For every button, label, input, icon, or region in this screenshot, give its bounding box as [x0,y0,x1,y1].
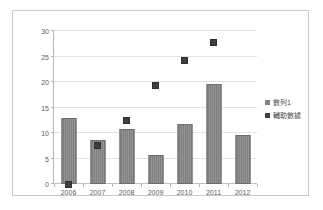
x-tick-label-2009: 2009 [148,189,164,196]
marker-2006[interactable] [65,181,72,188]
x-tick-mark [112,184,113,187]
bar-2008[interactable] [119,129,134,184]
legend-item-1[interactable]: 數列1 [265,99,317,106]
x-tick-mark [170,184,171,187]
bar-group [83,31,112,184]
marker-2010[interactable] [181,57,188,64]
x-tick-mark [54,184,55,187]
bar-group [199,31,228,184]
chart-legend: 數列1輔助數據 [265,99,317,125]
bar-2010[interactable] [177,124,192,184]
y-tick-label: 30 [41,28,49,35]
y-tick-label: 5 [45,155,49,162]
legend-label: 輔助數據 [273,112,301,119]
x-tick-label-2006: 2006 [61,189,77,196]
x-tick-mark [199,184,200,187]
x-tick-label-2011: 2011 [206,189,221,196]
x-tick-label-2007: 2007 [90,189,106,196]
marker-2007[interactable] [94,142,101,149]
marker-2011[interactable] [210,39,217,46]
y-tick-label: 0 [45,181,49,188]
bar-group [141,31,170,184]
x-tick-mark [83,184,84,187]
x-tick-mark [257,184,258,187]
marker-2009[interactable] [152,82,159,89]
x-tick-mark [228,184,229,187]
y-tick-label: 25 [41,53,49,60]
bars-layer [54,31,257,184]
bar-group [228,31,257,184]
x-tick-mark [141,184,142,187]
bar-group [170,31,199,184]
y-tick-label: 15 [41,104,49,111]
bar-group [54,31,83,184]
marker-2008[interactable] [123,117,130,124]
y-tick-label: 10 [41,130,49,137]
chart-frame: 051015202530 200620072008200920102011201… [12,10,309,196]
y-tick-label: 20 [41,79,49,86]
legend-swatch-icon [265,100,270,105]
bar-2012[interactable] [235,135,250,184]
bar-group [112,31,141,184]
x-tick-label-2008: 2008 [119,189,135,196]
bar-2009[interactable] [148,155,163,184]
legend-label: 數列1 [273,99,291,106]
x-tick-label-2012: 2012 [235,189,251,196]
legend-swatch-icon [265,113,270,118]
x-tick-label-2010: 2010 [177,189,193,196]
bar-2011[interactable] [206,84,221,184]
plot-area: 051015202530 200620072008200920102011201… [53,31,257,184]
bar-2006[interactable] [61,118,76,184]
legend-item-2[interactable]: 輔助數據 [265,112,317,119]
